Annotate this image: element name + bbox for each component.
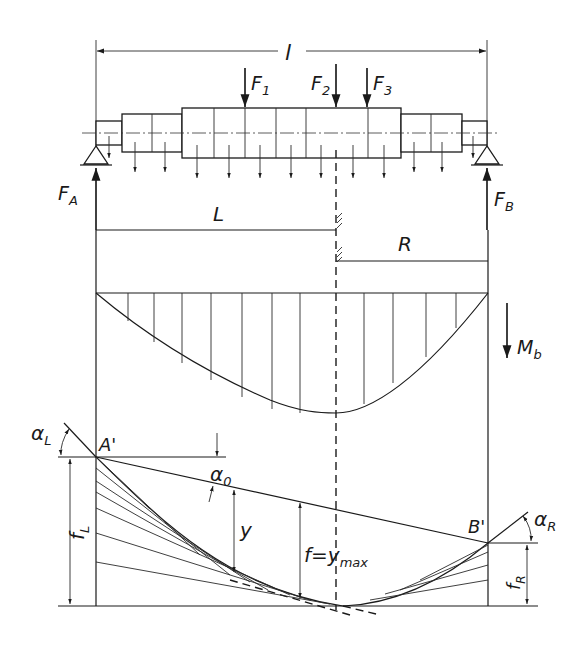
svg-text:F2: F2 — [311, 72, 330, 98]
deflection-curve — [96, 457, 488, 606]
force-F2: F2 — [311, 64, 336, 107]
left-part-label: L — [213, 202, 224, 226]
reaction-label-FA: FA — [58, 182, 78, 208]
angle-label-alpha-R: αR — [534, 507, 556, 534]
label-fR: fR — [503, 575, 528, 590]
alpha0-arrow-bottom — [209, 486, 213, 502]
tangent-fan-right — [370, 545, 488, 600]
angle-label-alpha-0: α0 — [210, 462, 231, 489]
force-F1: F1 — [245, 68, 270, 107]
right-part-label: R — [398, 232, 412, 256]
label-y: y — [239, 518, 253, 542]
angle-label-alpha-L: αL — [31, 421, 51, 448]
fixed-hatch — [337, 213, 342, 262]
label-fL: fL — [65, 526, 92, 540]
deflection-construction: αL αR α0 A' B' y f=ymax fL fR — [31, 421, 556, 615]
label-f-ymax: f=ymax — [304, 543, 368, 570]
tangent-extension-right — [343, 606, 380, 615]
span-label: l — [285, 40, 291, 65]
svg-text:F3: F3 — [373, 72, 392, 98]
angle-arc-alpha-L — [61, 429, 69, 455]
reaction-label-FB: FB — [494, 188, 514, 214]
svg-text:F1: F1 — [251, 72, 270, 98]
triangle-support-icon — [84, 146, 108, 164]
point-label-A-prime: A' — [98, 434, 116, 455]
shaft-bending-diagram: l F1 F2 — [0, 0, 587, 646]
chord-line — [96, 457, 488, 543]
tangent-left — [64, 423, 96, 457]
moment-label: Mb — [517, 336, 542, 362]
triangle-support-icon — [475, 146, 499, 164]
tangent-right — [488, 512, 528, 543]
moment-hatching — [128, 293, 456, 413]
angle-arc-alpha-R — [523, 516, 531, 541]
moment-curve — [96, 293, 488, 413]
bending-moment-diagram: Mb — [96, 293, 542, 413]
support-left: FA — [58, 146, 112, 230]
tangent-extension-left — [230, 580, 350, 615]
point-label-B-prime: B' — [468, 516, 485, 537]
force-F3: F3 — [367, 68, 392, 107]
support-right: FB — [471, 146, 514, 230]
left-right-division: L R — [96, 150, 488, 610]
